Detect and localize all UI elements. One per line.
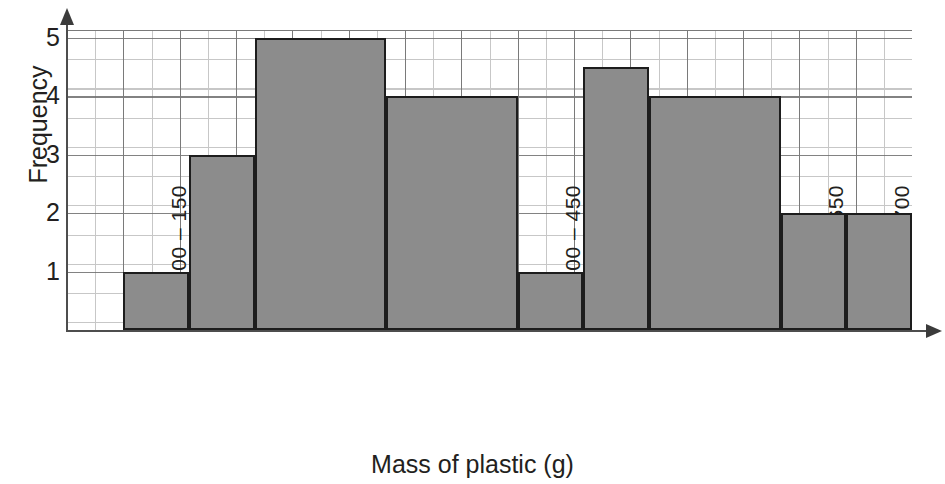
bar xyxy=(583,67,649,330)
histogram-figure: 12345 100 – 150150 – 200200 – 300300 – 4… xyxy=(0,0,945,484)
x-axis-arrow-icon xyxy=(926,324,942,338)
bar xyxy=(255,38,387,331)
bar xyxy=(649,96,781,330)
y-axis-line xyxy=(66,22,68,332)
bar xyxy=(386,96,518,330)
y-axis-title: Frequency xyxy=(24,0,53,255)
y-tick-label: 1 xyxy=(14,259,60,284)
bar xyxy=(846,213,912,330)
plot-area xyxy=(67,30,912,330)
bar xyxy=(123,272,189,331)
bar xyxy=(518,272,584,331)
x-axis-title: Mass of plastic (g) xyxy=(0,450,945,479)
x-axis-line xyxy=(66,330,928,332)
bar xyxy=(781,213,847,330)
bar xyxy=(189,155,255,331)
y-axis-arrow-icon xyxy=(60,8,74,25)
